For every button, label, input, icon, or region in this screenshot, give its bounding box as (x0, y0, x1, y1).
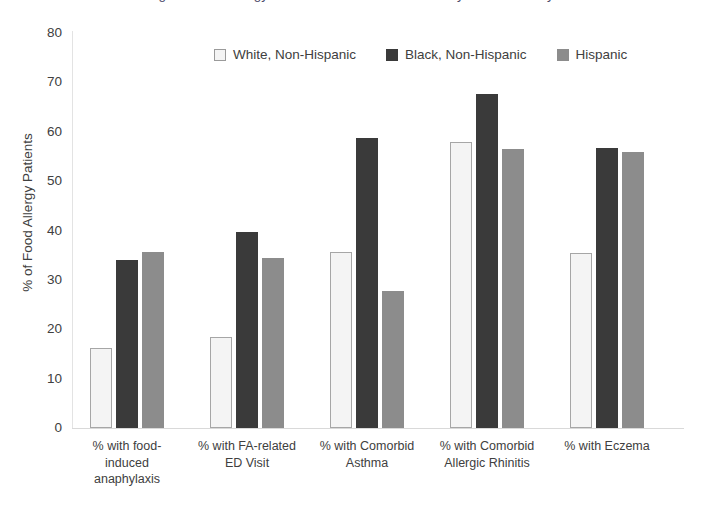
y-axis-tick-30: 30 (20, 273, 62, 287)
bar[interactable] (356, 138, 378, 428)
x-axis-label-line: Allergic Rhinitis (412, 455, 562, 472)
x-axis-label-line: anaphylaxis (52, 471, 202, 488)
y-axis-tick-60: 60 (20, 125, 62, 139)
bar[interactable] (596, 148, 618, 428)
bar-group (570, 33, 644, 428)
bar[interactable] (622, 152, 644, 429)
bar[interactable] (262, 258, 284, 428)
bar[interactable] (236, 232, 258, 428)
bar-chart: Figure: Food Allergy Comorbidities and O… (0, 0, 701, 508)
bar-group (450, 33, 524, 428)
bar-group (210, 33, 284, 428)
y-axis-tick-80: 80 (20, 26, 62, 40)
bar[interactable] (116, 260, 138, 428)
bar[interactable] (450, 142, 472, 428)
y-axis-tick-40: 40 (20, 224, 62, 238)
bar[interactable] (502, 149, 524, 428)
bar[interactable] (476, 94, 498, 428)
chart-title-cutoff: Figure: Food Allergy Comorbidities and O… (0, 0, 701, 3)
x-axis-label-line: % with Eczema (532, 438, 682, 455)
bar-group (90, 33, 164, 428)
x-axis-label: % with Eczema (532, 438, 682, 455)
x-axis-line (72, 428, 684, 429)
y-axis-tick-20: 20 (20, 322, 62, 336)
bar[interactable] (570, 253, 592, 428)
bar[interactable] (330, 252, 352, 428)
bar[interactable] (142, 252, 164, 428)
y-axis-tick-10: 10 (20, 372, 62, 386)
y-axis-tick-70: 70 (20, 75, 62, 89)
y-axis-tick-0: 0 (20, 421, 62, 435)
bar[interactable] (210, 337, 232, 428)
bar-group (330, 33, 404, 428)
bar[interactable] (382, 291, 404, 428)
bar[interactable] (90, 348, 112, 428)
y-axis-tick-50: 50 (20, 174, 62, 188)
plot-area (72, 33, 684, 428)
